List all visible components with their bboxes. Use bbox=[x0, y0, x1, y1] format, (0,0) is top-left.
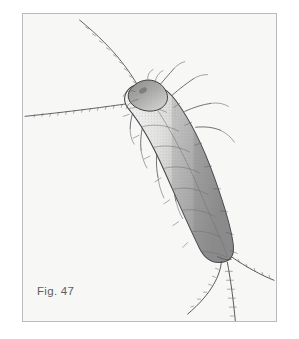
head bbox=[122, 70, 177, 119]
figure-plate: Fig. 47 bbox=[0, 0, 299, 339]
antenna-upper bbox=[80, 20, 141, 90]
figure-frame: Fig. 47 bbox=[22, 13, 277, 322]
silverfish-illustration bbox=[23, 14, 276, 321]
antenna-left bbox=[25, 103, 130, 117]
cerci bbox=[188, 257, 274, 321]
figure-caption: Fig. 47 bbox=[37, 285, 74, 297]
